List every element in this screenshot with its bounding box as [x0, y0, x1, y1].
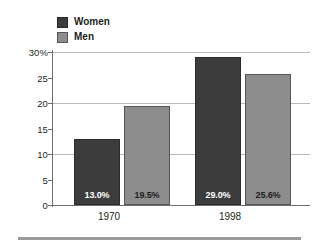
y-tick-label-25: 25: [4, 74, 48, 84]
bar-chart-figure: 13.0% 19.5% 29.0% 25.6% 30% 25 20 15 10 …: [0, 0, 319, 248]
x-axis-label-1998: 1998: [195, 212, 265, 222]
legend-item-women: Women: [57, 16, 110, 28]
bar-women-1970: 13.0%: [74, 139, 120, 205]
plot-area: 13.0% 19.5% 29.0% 25.6%: [52, 52, 310, 205]
legend-swatch-women-icon: [57, 17, 68, 28]
y-tick-label-30: 30%: [4, 48, 48, 58]
legend-label-men: Men: [74, 32, 94, 42]
y-tick-0: [48, 205, 52, 206]
bar-value-women-1998: 29.0%: [196, 191, 240, 200]
bottom-divider: [18, 237, 301, 240]
legend-label-women: Women: [74, 17, 110, 27]
y-tick-label-0: 0: [4, 201, 48, 211]
y-tick-label-10: 10: [4, 150, 48, 160]
x-axis-label-1970: 1970: [74, 212, 144, 222]
y-tick-10: [48, 154, 52, 155]
x-axis-line: [52, 205, 310, 206]
y-tick-15: [48, 129, 52, 130]
y-tick-label-5: 5: [4, 176, 48, 186]
y-axis-line: [52, 50, 53, 207]
bar-women-1998: 29.0%: [195, 57, 241, 205]
y-axis-labels: 30% 25 20 15 10 5 0: [0, 52, 48, 205]
y-tick-5: [48, 180, 52, 181]
legend-swatch-men-icon: [57, 32, 68, 43]
legend-item-men: Men: [57, 31, 110, 43]
bar-value-men-1970: 19.5%: [125, 191, 169, 200]
bar-value-women-1970: 13.0%: [75, 191, 119, 200]
bar-value-men-1998: 25.6%: [246, 191, 290, 200]
y-tick-25: [48, 78, 52, 79]
gridline-30: [52, 52, 310, 53]
chart-legend: Women Men: [57, 16, 110, 43]
bar-men-1998: 25.6%: [245, 74, 291, 205]
y-tick-30: [48, 52, 52, 53]
bar-men-1970: 19.5%: [124, 106, 170, 205]
y-tick-label-15: 15: [4, 125, 48, 135]
y-tick-label-20: 20: [4, 99, 48, 109]
y-tick-20: [48, 103, 52, 104]
